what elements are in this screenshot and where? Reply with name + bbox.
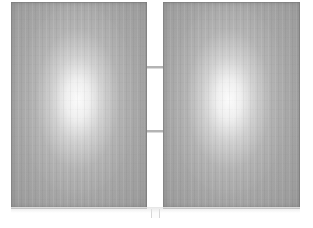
left-panel-hotspot <box>11 2 147 209</box>
divider-foot <box>151 209 160 218</box>
scene-root <box>0 0 313 228</box>
divider-tick-upper <box>147 66 163 68</box>
left-panel[interactable] <box>11 2 147 209</box>
right-panel-hotspot <box>163 2 300 209</box>
divider-tick-lower <box>147 130 163 132</box>
right-panel[interactable] <box>163 2 300 209</box>
center-gap <box>147 0 163 209</box>
